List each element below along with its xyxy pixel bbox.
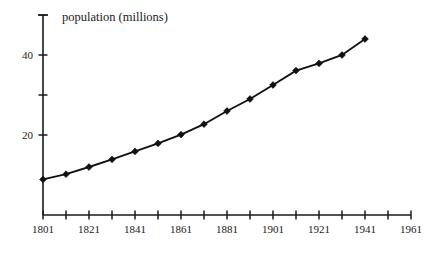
chart-title: population (millions) <box>62 10 168 24</box>
x-tick-label: 1941 <box>354 223 376 235</box>
population-line-chart: 2040 18011821184118611881190119211941196… <box>0 0 434 256</box>
x-tick-label: 1821 <box>78 223 100 235</box>
y-axis-tick-labels: 2040 <box>22 49 34 141</box>
x-tick-label: 1901 <box>262 223 284 235</box>
y-axis: 2040 <box>22 15 48 215</box>
x-tick-label: 1841 <box>124 223 146 235</box>
x-axis-tick-labels: 180118211841186118811901192119411961 <box>32 223 422 235</box>
x-tick-label: 1961 <box>400 223 422 235</box>
data-point-marker <box>86 164 93 171</box>
data-series-population <box>40 36 369 183</box>
data-point-marker <box>178 131 185 138</box>
y-tick-label: 20 <box>22 129 34 141</box>
x-tick-label: 1861 <box>170 223 192 235</box>
data-point-marker <box>316 60 323 67</box>
series-markers <box>40 36 369 183</box>
x-tick-label: 1881 <box>216 223 238 235</box>
data-point-marker <box>155 140 162 147</box>
data-point-marker <box>40 176 47 183</box>
x-tick-label: 1801 <box>32 223 54 235</box>
chart-canvas: 2040 18011821184118611881190119211941196… <box>0 0 434 256</box>
x-axis: 180118211841186118811901192119411961 <box>32 211 422 236</box>
data-point-marker <box>63 171 70 178</box>
y-tick-label: 40 <box>22 49 34 61</box>
x-tick-label: 1921 <box>308 223 330 235</box>
series-line <box>43 39 365 179</box>
data-point-marker <box>109 156 116 163</box>
data-point-marker <box>132 148 139 155</box>
